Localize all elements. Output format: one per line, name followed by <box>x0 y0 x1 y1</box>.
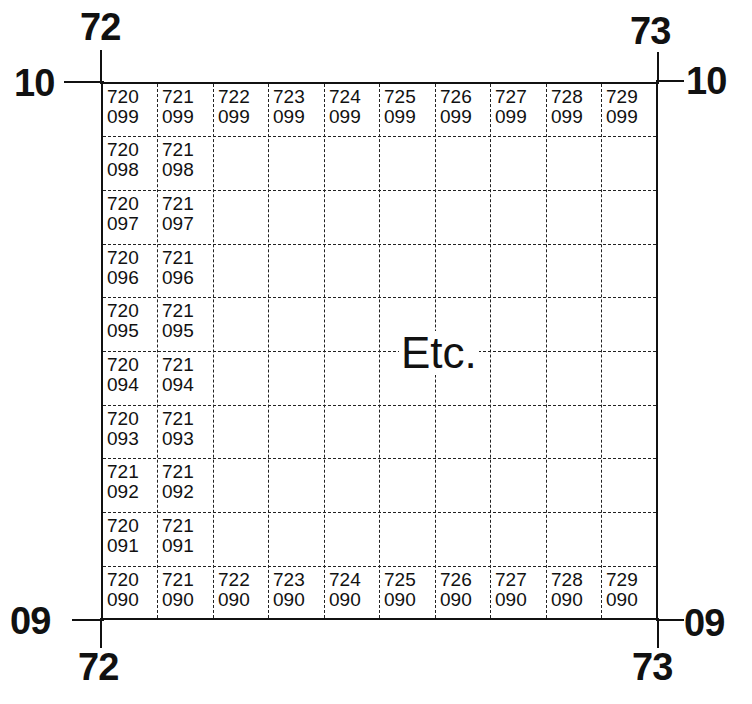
easting-label-top-left: 72 <box>80 8 120 46</box>
grid-cell-727-099: 727099 <box>491 84 527 127</box>
grid-cell-row7-col1: 721092 <box>103 459 139 502</box>
grid-cell-row2-col1: 720097 <box>103 191 139 234</box>
grid-cell-row7-col2: 721092 <box>158 459 194 502</box>
grid-cell-row8-col1: 720091 <box>103 513 139 556</box>
northing-label-bottom-left: 09 <box>10 602 50 640</box>
grid-cell-row6-col2: 721093 <box>158 406 194 449</box>
easting-label-bottom-right: 73 <box>632 648 672 686</box>
tick-bottom-right-v <box>657 618 659 648</box>
tick-bottom-left-v <box>100 618 102 648</box>
grid-cell-721-090: 721090 <box>158 567 194 610</box>
grid-square: 720099 721099 722099 723099 724099 72509… <box>101 82 658 620</box>
grid-cell-729-090: 729090 <box>602 567 638 610</box>
grid-cell-row3-col2: 721096 <box>158 245 194 288</box>
grid-cell-728-090: 728090 <box>547 567 583 610</box>
etc-label: Etc. <box>399 331 479 375</box>
grid-cell-724-090: 724090 <box>325 567 361 610</box>
tick-top-left-h <box>64 81 104 83</box>
grid-cell-726-099: 726099 <box>436 84 472 127</box>
grid-cell-row1-col1: 720098 <box>103 137 139 180</box>
grid-cell-row6-col1: 720093 <box>103 406 139 449</box>
grid-cell-723-099: 723099 <box>269 84 305 127</box>
grid-cell-725-090: 725090 <box>380 567 416 610</box>
tick-top-right-v <box>657 52 659 84</box>
grid-cell-723-090: 723090 <box>269 567 305 610</box>
grid-cell-726-090: 726090 <box>436 567 472 610</box>
northing-label-top-left: 10 <box>14 64 54 102</box>
easting-label-top-right: 73 <box>630 12 670 50</box>
grid-cell-720-090: 720090 <box>103 567 139 610</box>
tick-top-right-h <box>656 80 684 82</box>
northing-label-bottom-right: 09 <box>684 604 724 642</box>
northing-label-top-right: 10 <box>686 62 726 100</box>
grid-cell-row1-col2: 721098 <box>158 137 194 180</box>
grid-cell-720-099: 720099 <box>103 84 139 127</box>
grid-cell-row5-col1: 720094 <box>103 352 139 395</box>
grid-cell-721-099: 721099 <box>158 84 194 127</box>
grid-cell-729-099: 729099 <box>602 84 638 127</box>
grid-cell-722-099: 722099 <box>214 84 250 127</box>
grid-cell-row2-col2: 721097 <box>158 191 194 234</box>
grid-cell-row3-col1: 720096 <box>103 245 139 288</box>
grid-cell-row4-col1: 720095 <box>103 298 139 341</box>
grid-cell-725-099: 725099 <box>380 84 416 127</box>
grid-cell-722-090: 722090 <box>214 567 250 610</box>
tick-bottom-right-h <box>656 619 684 621</box>
grid-cell-724-099: 724099 <box>325 84 361 127</box>
grid-cell-row4-col2: 721095 <box>158 298 194 341</box>
tick-top-left-v <box>100 50 102 84</box>
grid-cell-row5-col2: 721094 <box>158 352 194 395</box>
easting-label-bottom-left: 72 <box>78 648 118 686</box>
grid-cell-727-090: 727090 <box>491 567 527 610</box>
grid-cell-row8-col2: 721091 <box>158 513 194 556</box>
grid-cell-728-099: 728099 <box>547 84 583 127</box>
